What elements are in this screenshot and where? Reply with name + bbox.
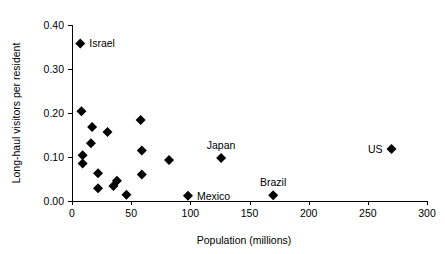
data-point-marker (87, 122, 97, 132)
chart-ticks (68, 26, 428, 206)
y-tick-label: 0.20 (44, 107, 65, 119)
data-point-marker (121, 190, 131, 200)
x-tick-label: 100 (182, 207, 200, 219)
data-point-marker (136, 115, 146, 125)
data-point-label-brazil: Brazil (260, 176, 286, 188)
data-point-label-us: US (368, 143, 383, 155)
data-point-label-israel: Israel (89, 37, 115, 49)
data-point-marker (216, 153, 226, 163)
chart-data-points (75, 38, 396, 200)
y-tick-label: 0.30 (44, 63, 65, 75)
data-point-marker (164, 155, 174, 165)
data-point-marker (183, 191, 193, 201)
x-tick-label: 300 (418, 207, 436, 219)
scatter-chart: 0501001502002503000.000.100.200.300.40 I… (0, 0, 445, 254)
data-point-marker (86, 138, 96, 148)
data-point-marker (76, 106, 86, 116)
chart-canvas: 0501001502002503000.000.100.200.300.40 I… (0, 0, 445, 254)
x-axis-title: Population (millions) (197, 234, 292, 246)
y-axis-title: Long-haul visitors per resident (10, 43, 22, 184)
data-point-marker (137, 170, 147, 180)
data-point-marker (93, 168, 103, 178)
chart-axes (72, 25, 427, 201)
y-tick-label: 0.40 (44, 19, 65, 31)
data-point-label-mexico: Mexico (197, 190, 230, 202)
x-tick-label: 0 (69, 207, 75, 219)
x-tick-label: 150 (241, 207, 259, 219)
x-tick-label: 250 (359, 207, 377, 219)
chart-point-labels: IsraelMexicoJapanBrazilUS (89, 37, 382, 201)
y-tick-label: 0.00 (44, 195, 65, 207)
data-point-label-japan: Japan (207, 139, 236, 151)
data-point-marker (387, 144, 397, 154)
data-point-marker (93, 183, 103, 193)
x-tick-label: 50 (125, 207, 137, 219)
y-tick-label: 0.10 (44, 151, 65, 163)
data-point-marker (78, 159, 88, 169)
data-point-marker (103, 127, 113, 137)
data-point-marker (75, 38, 85, 48)
x-tick-label: 200 (300, 207, 318, 219)
data-point-marker (268, 190, 278, 200)
data-point-marker (137, 145, 147, 155)
